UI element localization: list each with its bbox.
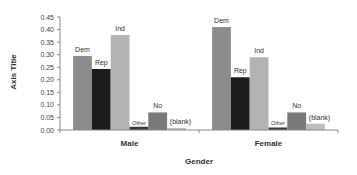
x-axis-title: Gender bbox=[185, 157, 213, 166]
y-axis-title: Axis Title bbox=[9, 54, 18, 90]
y-tick-label: 0.25 bbox=[40, 64, 54, 71]
bar-data-label: Other bbox=[271, 120, 285, 126]
x-category-label: Male bbox=[121, 139, 139, 148]
x-category-label: Female bbox=[255, 139, 283, 148]
bar-dem-female bbox=[212, 27, 231, 130]
bars: DemRepIndOtherNo(blank)DemRepIndOtherNo(… bbox=[73, 17, 330, 130]
bar-blank-female bbox=[306, 124, 325, 130]
y-axis: 0.000.050.100.150.200.250.300.350.400.45 bbox=[40, 14, 60, 134]
bar-data-label: Other bbox=[132, 120, 146, 126]
bar-ind-male bbox=[111, 35, 130, 130]
y-tick-label: 0.00 bbox=[40, 127, 54, 134]
bar-data-label: Dem bbox=[75, 46, 90, 53]
y-tick-label: 0.45 bbox=[40, 14, 54, 21]
bar-data-label: (blank) bbox=[309, 114, 330, 122]
bar-rep-female bbox=[231, 77, 250, 130]
bar-dem-male bbox=[73, 56, 92, 130]
bar-ind-female bbox=[250, 57, 269, 130]
bar-data-label: Rep bbox=[95, 59, 108, 67]
y-tick-label: 0.20 bbox=[40, 76, 54, 83]
y-tick-label: 0.40 bbox=[40, 26, 54, 33]
bar-no-male bbox=[148, 112, 167, 130]
y-tick-label: 0.35 bbox=[40, 39, 54, 46]
bar-data-label: Rep bbox=[234, 67, 247, 75]
x-axis: MaleFemale bbox=[60, 130, 338, 148]
y-tick-label: 0.15 bbox=[40, 89, 54, 96]
bar-rep-male bbox=[92, 69, 111, 130]
bar-data-label: No bbox=[153, 102, 162, 109]
bar-data-label: No bbox=[292, 102, 301, 109]
bar-data-label: (blank) bbox=[170, 118, 191, 126]
bar-data-label: Dem bbox=[214, 17, 229, 24]
bar-no-female bbox=[287, 112, 306, 130]
bar-data-label: Ind bbox=[115, 25, 125, 32]
bar-data-label: Ind bbox=[254, 47, 264, 54]
bar-chart: 0.000.050.100.150.200.250.300.350.400.45… bbox=[0, 0, 357, 175]
y-tick-label: 0.30 bbox=[40, 51, 54, 58]
y-tick-label: 0.05 bbox=[40, 114, 54, 121]
y-tick-label: 0.10 bbox=[40, 101, 54, 108]
